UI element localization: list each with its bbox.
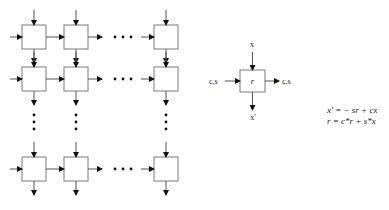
ellipsis-dot (114, 36, 117, 39)
systolic-array-diagram: r x x' c,s c,s x' = − sr + cx r = c*r + … (0, 0, 389, 210)
ellipsis-dot (165, 121, 168, 124)
processing-array (10, 10, 178, 195)
output-cs-label: c,s (282, 77, 291, 86)
cell-label-r: r (251, 76, 255, 86)
processing-cell (64, 157, 88, 181)
processing-cell (22, 67, 46, 91)
cell-detail: r x x' c,s c,s (209, 40, 291, 122)
ellipsis-dot (130, 168, 133, 171)
processing-cell (154, 67, 178, 91)
processing-cell (22, 25, 46, 49)
equation-x-prime: x' = − sr + cx (326, 105, 377, 115)
ellipsis-dot (114, 78, 117, 81)
equation-r: r = c*r + s*x (327, 116, 376, 126)
ellipsis-dot (33, 114, 36, 117)
input-cs-label: c,s (209, 77, 218, 86)
ellipsis-dot (33, 128, 36, 131)
ellipsis-dot (122, 168, 125, 171)
ellipsis-dot (75, 121, 78, 124)
ellipsis-dot (75, 114, 78, 117)
processing-cell (22, 157, 46, 181)
ellipsis-dot (75, 128, 78, 131)
ellipsis-dot (122, 36, 125, 39)
ellipsis-dot (114, 168, 117, 171)
ellipsis-dot (122, 78, 125, 81)
cell-equations: x' = − sr + cx r = c*r + s*x (326, 105, 377, 126)
processing-cell (64, 25, 88, 49)
input-x-label: x (250, 40, 254, 49)
ellipsis-dot (33, 121, 36, 124)
ellipsis-dot (165, 114, 168, 117)
processing-cell (154, 157, 178, 181)
processing-cell (154, 25, 178, 49)
output-x-prime-label: x' (250, 113, 256, 122)
ellipsis-dot (130, 78, 133, 81)
processing-cell (64, 67, 88, 91)
ellipsis-dot (130, 36, 133, 39)
ellipsis-dot (165, 128, 168, 131)
